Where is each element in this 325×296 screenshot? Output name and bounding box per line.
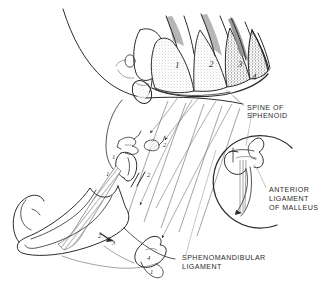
spine-of-sphenoid-line1: SPINE OF — [247, 104, 284, 112]
anatomical-figure: 1 2 3 4 2 1 1 — [0, 0, 325, 296]
label-spine-of-sphenoid: SPINE OF SPHENOID — [226, 90, 288, 120]
arch-key-bars — [131, 172, 145, 187]
arch-number-4: 4 — [252, 72, 257, 82]
ligament-band-number-1: 1 — [106, 170, 109, 177]
anterior-lig-malleus-line3: OF MALLEUS — [269, 204, 318, 212]
figure-canvas: 1 2 3 4 2 1 1 — [0, 0, 325, 296]
hyoid-number-1: 1 — [150, 268, 153, 275]
hyoid-number-4: 4 — [147, 254, 151, 261]
anterior-lig-malleus-line1: ANTERIOR — [269, 186, 309, 194]
arch-number-1: 1 — [175, 60, 180, 70]
mandible-number-3: 3 — [111, 239, 116, 246]
foramen-ring — [116, 55, 135, 78]
key-bar-number-2: 2 — [147, 171, 151, 178]
sphenomandibular-lig-line2: LIGAMENT — [182, 263, 222, 271]
ear-ossicles-group — [117, 131, 165, 154]
spine-of-sphenoid-line2: SPHENOID — [247, 112, 288, 120]
mandible-number-2: 2 — [98, 232, 102, 239]
styloid-process — [116, 152, 137, 181]
styloid-number-1: 1 — [112, 153, 115, 160]
ossicle-number-2: 2 — [163, 141, 167, 148]
arch-number-2: 2 — [209, 59, 214, 69]
pharyngeal-arches-group — [151, 14, 270, 97]
sphenomandibular-lig-line1: SPHENOMANDIBULAR — [182, 254, 266, 262]
arch-number-3: 3 — [237, 59, 243, 69]
label-anterior-ligament-of-malleus: ANTERIOR LIGAMENT OF MALLEUS — [254, 164, 318, 212]
anterior-lig-malleus-line2: LIGAMENT — [269, 195, 309, 203]
inset-malleus — [224, 138, 263, 216]
projection-lines — [140, 97, 232, 238]
